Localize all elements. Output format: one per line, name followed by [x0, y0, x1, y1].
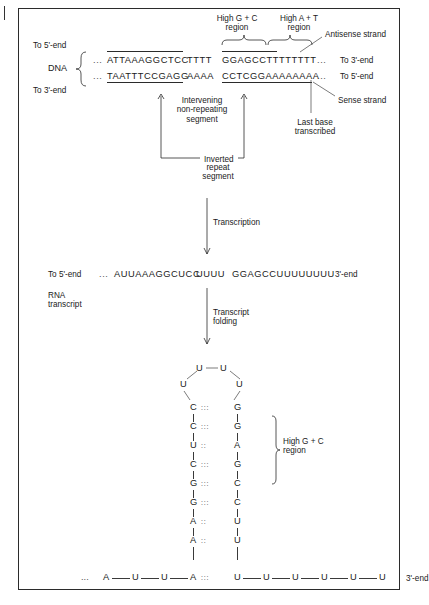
antisense-pointer: [300, 37, 322, 52]
loop-bond-right-upper: [230, 371, 240, 379]
dna-brace: [76, 52, 86, 86]
loop-bond-left-upper: [187, 371, 197, 379]
high-gc-brace-top: [222, 35, 266, 45]
hairpin-gc-bracket: [272, 416, 280, 484]
loop-bond-right-lower: [234, 391, 240, 400]
sense-pointer: [313, 82, 335, 96]
high-at-brace-top: [268, 35, 312, 45]
loop-bond-left-lower: [184, 391, 190, 400]
